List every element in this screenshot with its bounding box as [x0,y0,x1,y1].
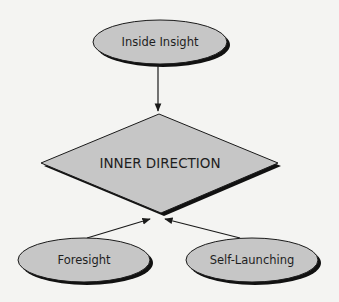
arrow-self-launching-to-center [165,219,240,238]
label-inner-direction: INNER DIRECTION [99,155,220,171]
label-self-launching: Self-Launching [210,253,295,267]
flow-diagram: Inside Insight INNER DIRECTION Foresight… [0,0,339,302]
label-inside-insight: Inside Insight [122,35,199,49]
label-foresight: Foresight [57,253,110,267]
arrow-foresight-to-center [87,219,150,238]
